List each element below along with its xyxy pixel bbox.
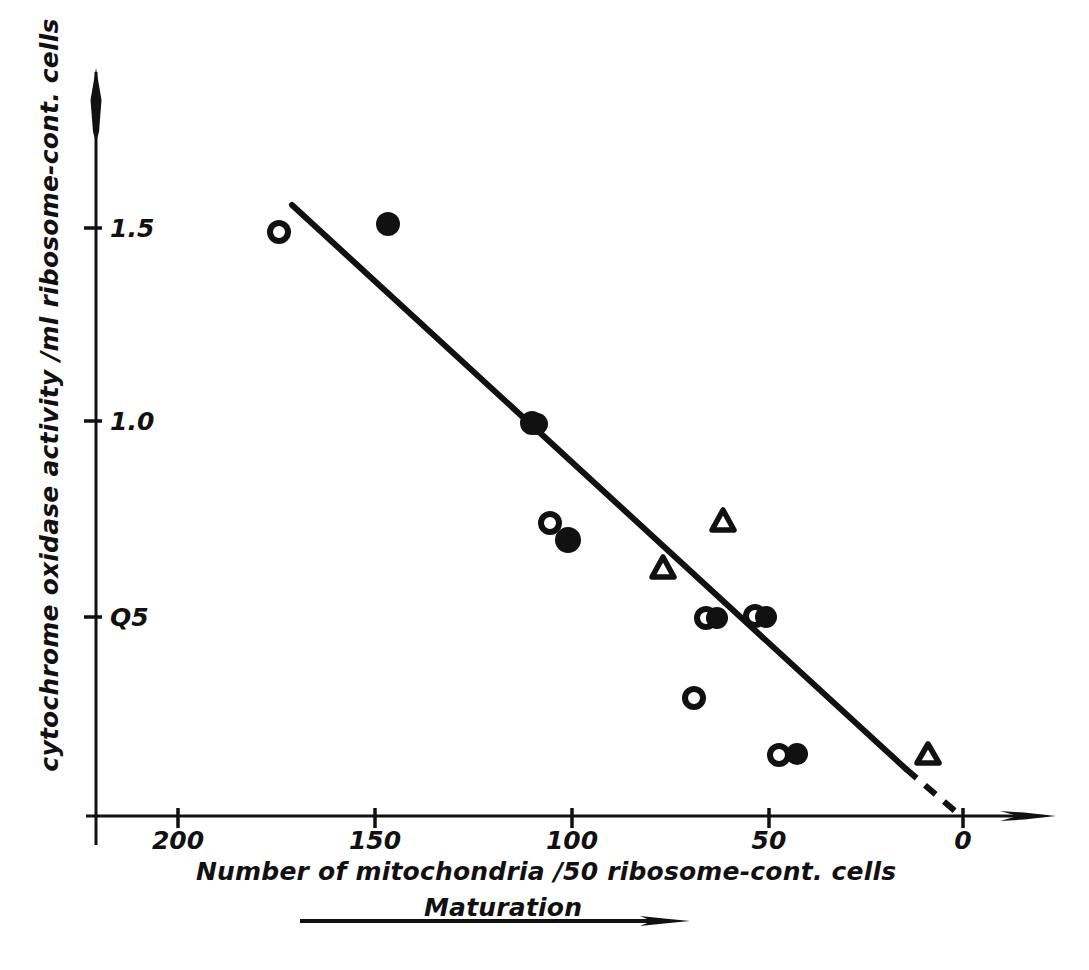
data-point-filled-circle xyxy=(376,212,400,236)
data-point-filled-circle xyxy=(706,607,728,629)
data-point-filled-circle xyxy=(786,743,808,765)
x-tick-label-200: 200 xyxy=(152,826,204,855)
regression-line-solid xyxy=(292,205,906,769)
regression-line-dashed xyxy=(906,769,962,817)
y-tick-label-1-5: 1.5 xyxy=(110,214,154,243)
chart-figure: cytochrome oxidase activity /ml ribosome… xyxy=(0,0,1089,970)
data-point-open-circle xyxy=(541,514,559,532)
y-tick-label-1-0: 1.0 xyxy=(110,407,154,436)
data-point-open-circle xyxy=(685,689,703,707)
filled-circle-markers xyxy=(376,212,808,765)
scatter-plot-canvas xyxy=(0,0,1089,970)
data-point-open-circle xyxy=(770,746,788,764)
data-point-open-triangle xyxy=(652,557,674,577)
x-tick-label-50: 50 xyxy=(752,826,787,855)
maturation-annotation: Maturation xyxy=(424,893,582,922)
x-tick-label-100: 100 xyxy=(546,826,598,855)
regression-line xyxy=(292,205,962,817)
x-tick-label-150: 150 xyxy=(349,826,401,855)
x-tick-marks xyxy=(178,808,963,828)
y-axis-arrowhead xyxy=(91,68,102,142)
data-point-open-triangle xyxy=(712,510,734,530)
y-tick-marks xyxy=(84,228,102,617)
data-point-filled-circle xyxy=(555,527,581,553)
data-point-open-triangle xyxy=(917,744,939,763)
data-point-open-circle xyxy=(270,223,288,241)
open-triangle-markers xyxy=(652,510,939,763)
x-tick-label-0: 0 xyxy=(954,826,971,855)
y-tick-label-0-5: Q5 xyxy=(110,603,149,632)
open-circle-markers xyxy=(270,223,788,764)
y-axis xyxy=(91,68,102,845)
x-axis-title: Number of mitochondria /50 ribosome-cont… xyxy=(196,857,896,886)
data-point-filled-circle xyxy=(755,606,777,628)
y-axis-title: cytochrome oxidase activity /ml ribosome… xyxy=(22,0,78,790)
data-point-filled-circle xyxy=(526,413,548,435)
